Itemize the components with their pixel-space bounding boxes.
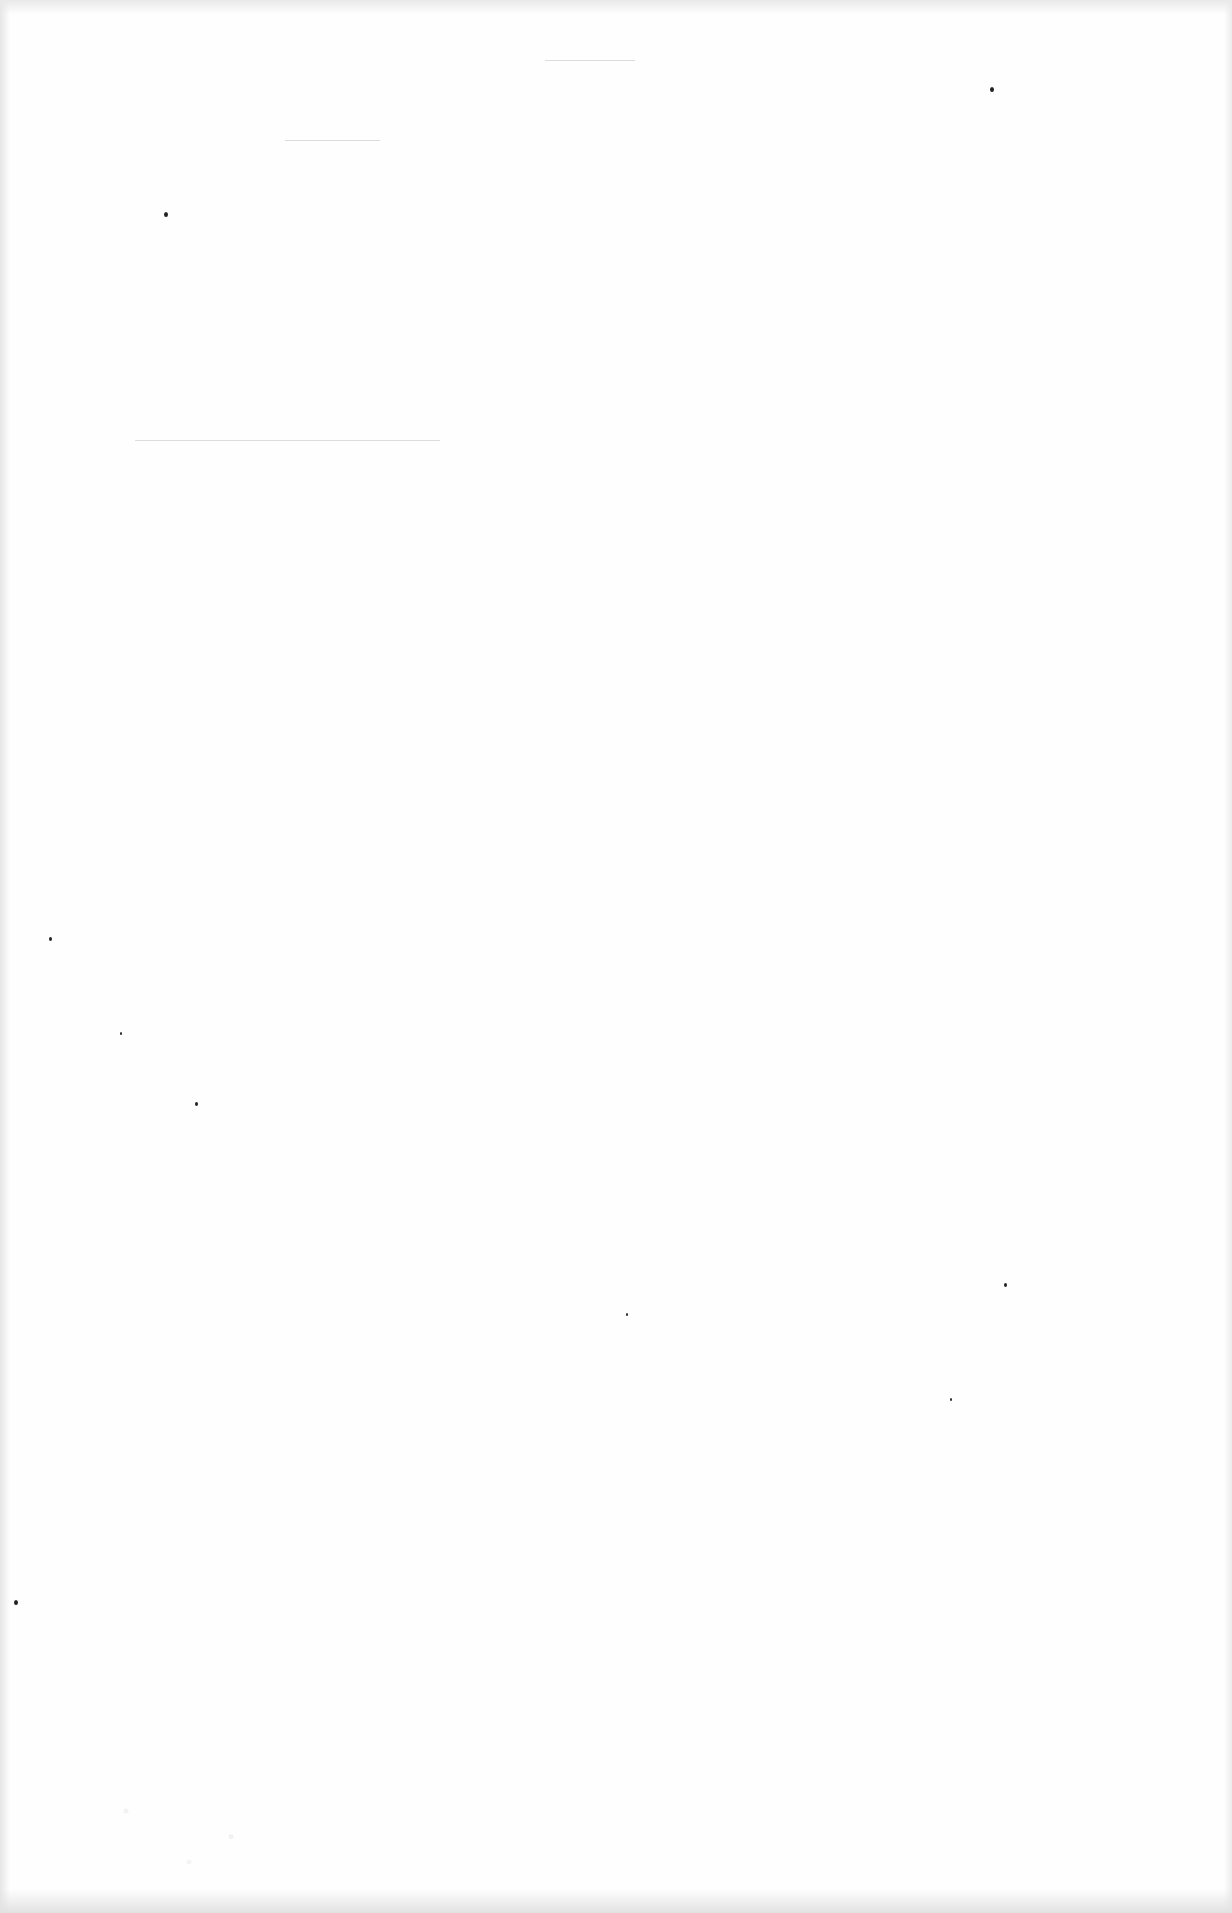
ink-speck — [164, 212, 168, 217]
ink-speck — [120, 1032, 122, 1035]
ink-speck — [990, 87, 994, 92]
blank-page — [0, 0, 1232, 1913]
scan-edge-shadow-left — [0, 0, 10, 1913]
ink-speck — [195, 1102, 198, 1106]
ink-speck — [950, 1398, 952, 1401]
scan-noise-region — [0, 1743, 420, 1913]
faint-rule-line — [285, 140, 380, 141]
ink-speck — [1004, 1283, 1007, 1287]
ink-speck — [626, 1313, 628, 1316]
scan-edge-shadow-right — [1224, 0, 1232, 1913]
ink-speck — [49, 937, 52, 941]
ink-speck — [14, 1600, 18, 1605]
scan-edge-shadow-top — [0, 0, 1232, 14]
faint-rule-line — [135, 440, 440, 441]
faint-rule-line — [545, 60, 635, 61]
